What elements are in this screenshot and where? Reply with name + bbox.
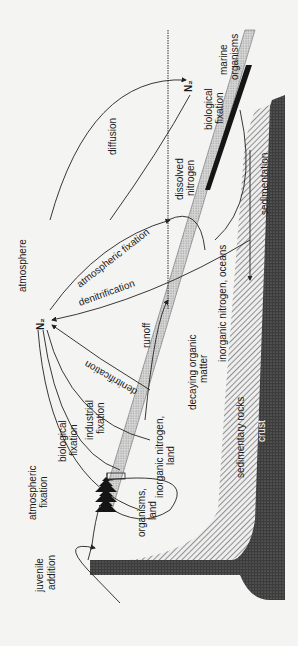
ocean-n2-curve [110, 95, 190, 220]
label-diffusion: diffusion [107, 118, 118, 155]
nitrogen-cycle-diagram: diffusion atmosphere N₂ N₂ atmospheric f… [0, 0, 298, 646]
label-bio-fixation-land-1: biological [57, 420, 68, 462]
label-dissolved-1: dissolved [174, 158, 185, 200]
label-runoff: runoff [141, 322, 152, 348]
label-industrial-1: industrial [84, 400, 95, 440]
label-n2-ocean: N₂ [183, 80, 194, 92]
label-inorganic-land-2: land [165, 446, 176, 465]
label-organisms-land-2: land [147, 501, 158, 520]
label-industrial-2: fixation [95, 402, 106, 434]
label-atm-fixation-land-2: fixation [38, 476, 49, 508]
label-crust: crust [256, 420, 267, 442]
label-atm-fixation-land-1: atmospheric [27, 466, 38, 520]
label-atmosphere: atmosphere [17, 239, 28, 292]
label-sedimentary-rocks: sedimentary rocks [235, 397, 246, 478]
label-inorganic-nitrogen-oceans: inorganic nitrogen, oceans [217, 245, 228, 362]
label-sedimentation: sedimentation [259, 153, 270, 215]
label-inorganic-land-1: inorganic nitrogen, [154, 416, 165, 498]
label-juvenile-1: juvenile [34, 558, 45, 593]
label-juvenile-2: addition [46, 555, 57, 590]
label-organisms-land-1: organisms, [136, 488, 147, 537]
label-bio-fixation-land-2: fixation [68, 424, 79, 456]
land-surface-line [88, 505, 100, 560]
label-marine-organisms-1: marine [218, 44, 229, 75]
label-bio-fixation-marine-1: biological [203, 88, 214, 130]
label-atmospheric-fixation-ocean: atmospheric fixation [74, 226, 151, 289]
label-decaying-2: matter [198, 354, 209, 383]
label-bio-fixation-marine-2: fixation [214, 92, 225, 124]
label-n2-main: N₂ [35, 318, 46, 330]
label-dissolved-2: nitrogen [185, 160, 196, 196]
label-marine-organisms-2: organisms [229, 34, 240, 80]
label-decaying-1: decaying organic [187, 334, 198, 410]
diffusion-arrow [50, 80, 186, 220]
denitrification-land-arrow [52, 325, 150, 390]
